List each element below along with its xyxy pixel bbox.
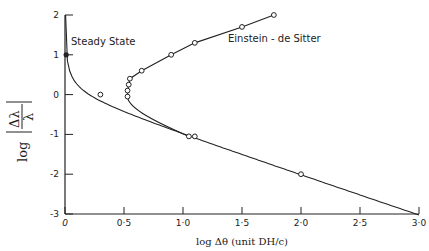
eds-point xyxy=(125,94,130,99)
eds-point xyxy=(139,68,144,73)
x-tick-label: 1·0 xyxy=(176,218,191,228)
y-tick-label: 1 xyxy=(53,50,59,60)
y-tick-label: 0 xyxy=(53,90,59,100)
y-axis-label: logΔλλ xyxy=(6,102,36,162)
steady-state-point xyxy=(98,92,103,97)
x-axis-label: log Δθ (unit DH/c) xyxy=(196,236,288,247)
svg-text:λ: λ xyxy=(21,113,36,121)
y-tick-label: -3 xyxy=(50,209,59,219)
svg-text:log: log xyxy=(15,142,30,162)
x-tick-label: 2·0 xyxy=(294,218,309,228)
chart: 210-1-2-300·51·01·52·02·53·0Steady State… xyxy=(0,0,429,251)
eds-point xyxy=(169,52,174,57)
steady-state-point xyxy=(299,172,304,177)
eds-point xyxy=(126,82,131,87)
x-tick-label: 1·5 xyxy=(235,218,249,228)
eds-point xyxy=(192,134,197,139)
eds-point xyxy=(187,134,192,139)
eds-point xyxy=(271,13,276,18)
y-tick-label: -2 xyxy=(50,169,59,179)
x-tick-label: 0 xyxy=(62,218,68,228)
eds-label: Einstein - de Sitter xyxy=(228,33,322,44)
x-tick-label: 3·0 xyxy=(412,218,427,228)
eds-point xyxy=(192,40,197,45)
steady-state-label: Steady State xyxy=(71,36,135,47)
x-tick-label: 0·5 xyxy=(117,218,131,228)
y-tick-label: -1 xyxy=(50,129,59,139)
eds-point xyxy=(240,25,245,30)
y-tick-label: 2 xyxy=(53,10,59,20)
steady-state-marker xyxy=(64,52,69,57)
svg-text:Δλ: Δλ xyxy=(7,110,22,128)
eds-point xyxy=(127,76,132,81)
x-tick-label: 2·5 xyxy=(353,218,367,228)
eds-point xyxy=(125,88,130,93)
